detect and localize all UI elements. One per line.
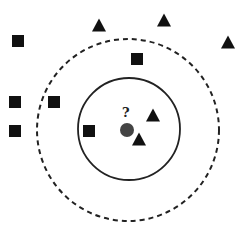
- query-point-dot: [120, 123, 134, 137]
- square-point: [9, 96, 21, 108]
- knn-diagram: [0, 0, 239, 229]
- square-point: [48, 96, 60, 108]
- query-label: ?: [122, 106, 130, 119]
- square-point: [83, 125, 95, 137]
- background: [0, 0, 239, 229]
- square-point: [12, 35, 24, 47]
- square-point: [9, 125, 21, 137]
- square-point: [131, 53, 143, 65]
